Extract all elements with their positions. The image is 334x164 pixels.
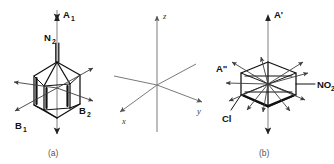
panel-a-vector-b1-label: B — [15, 120, 22, 131]
panel-a-vector-b2-label: B — [79, 105, 86, 116]
panel-a-caption: (a) — [48, 148, 59, 158]
panel-a-substituent-n-sub: 2 — [52, 38, 56, 45]
panel-b-substituent-cl-label: Cl — [222, 113, 232, 124]
figure-container: A 1 N 2 B 1 B 2 (a) z y x — [0, 0, 334, 164]
panel-b-vector-aprime-label: A' — [274, 9, 283, 20]
panel-a-vector-b2-sub: 2 — [87, 111, 91, 118]
panel-b-vector-adoubleprime-label: A" — [216, 63, 227, 74]
panel-a-vector-a1-label: A — [63, 9, 70, 20]
axis-x-label: x — [121, 116, 126, 126]
panel-a-vector-a1-sub: 1 — [71, 15, 75, 22]
panel-a-vector-b1-sub: 1 — [23, 126, 27, 133]
figure-background — [0, 0, 334, 164]
axis-y-label: y — [196, 106, 201, 116]
panel-b-caption: (b) — [259, 148, 270, 158]
panel-b-substituent-no2-label: NO — [317, 79, 331, 90]
panel-a-substituent-n-label: N — [44, 32, 51, 43]
axis-z-label: z — [162, 11, 167, 21]
